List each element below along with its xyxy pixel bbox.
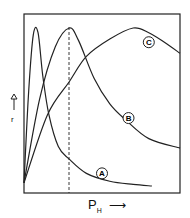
- series-A-curve: [24, 27, 152, 186]
- x-axis-label-sub: H: [97, 207, 102, 214]
- series-label-C: C: [146, 38, 152, 47]
- x-axis-arrow-icon: ⟶: [109, 198, 126, 212]
- series-label-B: B: [126, 114, 132, 123]
- x-axis-label: PH ⟶: [88, 197, 126, 214]
- x-axis-label-main: P: [88, 197, 97, 212]
- chart: ABC: [0, 0, 190, 218]
- series-label-A: A: [99, 169, 105, 178]
- y-axis-arrow-icon: [11, 94, 17, 110]
- y-axis-label: r: [11, 115, 14, 124]
